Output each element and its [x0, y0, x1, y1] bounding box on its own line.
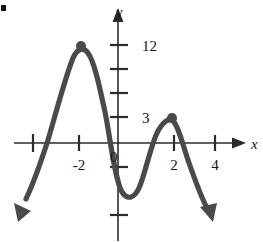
y-tick-label-twelve: 12	[142, 38, 157, 54]
local-maximum-left-dot	[76, 41, 86, 51]
arrow-down-left-icon	[14, 203, 31, 222]
arrow-right-icon	[232, 138, 246, 149]
arrow-down-right-icon	[200, 203, 217, 222]
y-axis-label: y	[114, 4, 123, 20]
local-maximum-right-dot	[167, 113, 177, 123]
y-tick-label-three: 3	[142, 110, 150, 126]
origin-label: 0	[110, 149, 118, 165]
polynomial-curve	[26, 49, 206, 206]
x-axis-label: x	[250, 136, 258, 152]
x-tick-label-neg-two: -2	[73, 157, 86, 173]
x-tick-label-two: 2	[170, 157, 178, 173]
graph-figure: y x 12 3 0 -2 2 4	[0, 0, 263, 242]
x-tick-label-four: 4	[211, 157, 219, 173]
cartesian-graph-canvas: y x 12 3 0 -2 2 4	[0, 0, 263, 242]
